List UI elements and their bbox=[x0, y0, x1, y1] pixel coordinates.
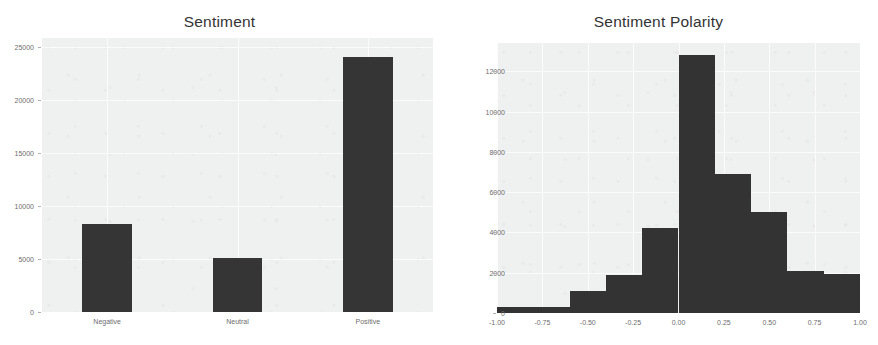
y-tick-label: 6000 bbox=[455, 189, 505, 196]
x-tick-label: 1.00 bbox=[853, 319, 867, 326]
y-tick-label: 25000 bbox=[0, 43, 34, 50]
chart-title-sentiment-polarity: Sentiment Polarity bbox=[439, 13, 878, 31]
x-tick-label: 0.50 bbox=[762, 319, 776, 326]
plot-area-sentiment bbox=[42, 38, 433, 312]
y-tick-label: 2000 bbox=[455, 269, 505, 276]
y-tick-mark bbox=[38, 153, 41, 154]
y-tick-mark bbox=[493, 313, 496, 314]
histogram-bin-9 bbox=[824, 274, 860, 313]
gridline-vertical bbox=[588, 43, 589, 313]
sentiment-polarity-histogram-figure: Sentiment Polarity 020004000600080001000… bbox=[439, 0, 878, 345]
y-tick-label: 20000 bbox=[0, 96, 34, 103]
gridline-vertical bbox=[542, 43, 543, 313]
sentiment-bar-chart-figure: Sentiment 0500010000150002000025000 Nega… bbox=[0, 0, 439, 345]
y-tick-mark bbox=[38, 259, 41, 260]
histogram-bin-5 bbox=[679, 55, 715, 313]
x-tick-label: 0.75 bbox=[808, 319, 822, 326]
figure-row: Sentiment 0500010000150002000025000 Nega… bbox=[0, 0, 878, 345]
y-tick-mark bbox=[38, 47, 41, 48]
x-tick-label-neutral: Neutral bbox=[226, 318, 249, 325]
gridline-vertical bbox=[633, 43, 634, 313]
x-tick-label: -0.25 bbox=[625, 319, 641, 326]
x-tick-label-negative: Negative bbox=[93, 318, 121, 325]
y-tick-mark bbox=[38, 100, 41, 101]
y-tick-mark bbox=[493, 112, 496, 113]
y-tick-label: 0 bbox=[455, 310, 505, 317]
y-tick-label: 5000 bbox=[0, 255, 34, 262]
histogram-bin-2 bbox=[570, 291, 606, 313]
x-tick-label: -0.50 bbox=[580, 319, 596, 326]
histogram-bin-7 bbox=[751, 212, 787, 313]
plot-area-sentiment-polarity bbox=[497, 43, 860, 313]
histogram-bin-1 bbox=[533, 307, 569, 313]
histogram-bin-8 bbox=[787, 271, 823, 313]
y-tick-label: 8000 bbox=[455, 148, 505, 155]
y-tick-label: 10000 bbox=[0, 202, 34, 209]
y-tick-label: 10000 bbox=[455, 108, 505, 115]
chart-title-sentiment: Sentiment bbox=[0, 13, 439, 31]
histogram-bin-4 bbox=[642, 228, 678, 313]
x-tick-label: -1.00 bbox=[489, 319, 505, 326]
histogram-bin-6 bbox=[715, 174, 751, 313]
y-tick-mark bbox=[38, 312, 41, 313]
bar-negative bbox=[82, 224, 132, 312]
x-tick-label: 0.00 bbox=[672, 319, 686, 326]
bar-positive bbox=[343, 57, 393, 312]
x-tick-label-positive: Positive bbox=[356, 318, 381, 325]
x-tick-label: -0.75 bbox=[534, 319, 550, 326]
x-tick-label: 0.25 bbox=[717, 319, 731, 326]
y-tick-mark bbox=[493, 192, 496, 193]
y-tick-label: 15000 bbox=[0, 149, 34, 156]
bar-neutral bbox=[213, 258, 263, 312]
y-tick-label: 4000 bbox=[455, 229, 505, 236]
y-tick-mark bbox=[493, 71, 496, 72]
histogram-bin-3 bbox=[606, 275, 642, 313]
y-tick-label: 0 bbox=[0, 309, 34, 316]
y-tick-label: 12000 bbox=[455, 68, 505, 75]
y-tick-mark bbox=[493, 232, 496, 233]
y-tick-mark bbox=[493, 273, 496, 274]
y-tick-mark bbox=[493, 152, 496, 153]
y-tick-mark bbox=[38, 206, 41, 207]
